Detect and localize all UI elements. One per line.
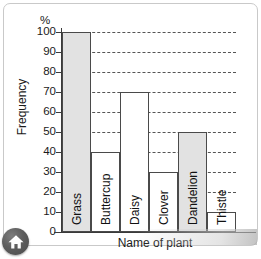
- home-icon: [7, 234, 24, 250]
- y-tick-label: 60: [28, 106, 56, 118]
- chart-frame: % Frequency 1009080706050403020100 Grass…: [3, 3, 258, 246]
- y-tick-label: 10: [28, 206, 56, 218]
- y-tick-mark: [56, 72, 61, 73]
- x-axis-line: [54, 232, 256, 233]
- y-tick-label: 90: [28, 46, 56, 58]
- y-tick-label: 50: [28, 126, 56, 138]
- bar-buttercup: Buttercup: [91, 152, 120, 232]
- y-tick-mark: [56, 132, 61, 133]
- bar-label: Grass: [70, 193, 84, 225]
- bar-clover: Clover: [149, 172, 178, 232]
- y-tick-mark: [56, 52, 61, 53]
- bar-daisy: Daisy: [120, 92, 149, 232]
- y-tick-mark: [56, 92, 61, 93]
- home-button[interactable]: [2, 228, 29, 255]
- bar-label: Daisy: [128, 195, 142, 225]
- y-tick-mark: [56, 232, 61, 233]
- y-tick-label: 20: [28, 186, 56, 198]
- bar-thistle: Thistle: [207, 212, 236, 232]
- y-tick-mark: [56, 112, 61, 113]
- bar-label: Thistle: [215, 190, 229, 225]
- bar-label: Dandelion: [186, 171, 200, 225]
- y-tick-label: 30: [28, 166, 56, 178]
- y-tick-mark: [56, 212, 61, 213]
- bar-grass: Grass: [62, 32, 91, 232]
- plot-area: GrassButtercupDaisyCloverDandelionThistl…: [62, 32, 236, 232]
- bar-dandelion: Dandelion: [178, 132, 207, 232]
- y-tick-label: 70: [28, 86, 56, 98]
- y-tick-label: 100: [28, 26, 56, 38]
- y-tick-label: 0: [28, 226, 56, 238]
- y-tick-label: 80: [28, 66, 56, 78]
- y-tick-mark: [56, 152, 61, 153]
- y-tick-mark: [56, 172, 61, 173]
- y-tick-mark: [56, 32, 61, 33]
- y-axis-tick-labels: 1009080706050403020100: [22, 4, 56, 259]
- y-tick-mark: [56, 192, 61, 193]
- bar-label: Clover: [157, 190, 171, 225]
- x-axis-title: Name of plant: [54, 236, 256, 250]
- y-tick-label: 40: [28, 146, 56, 158]
- bar-label: Buttercup: [99, 174, 113, 225]
